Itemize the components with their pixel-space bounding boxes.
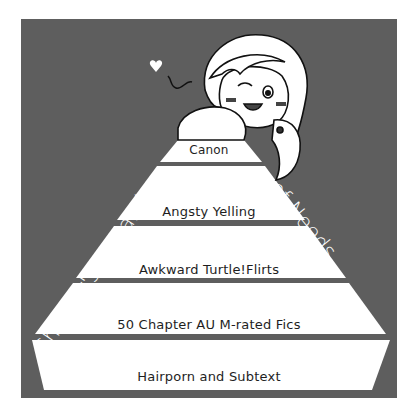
squiggle-line [168,76,192,88]
tier-label-angsty-yelling: Angsty Yelling [0,204,418,219]
heart-icon [150,60,162,72]
tier-label-hairporn: Hairporn and Subtext [0,369,418,384]
tier-label-canon: Canon [0,143,418,157]
tier-label-awkward-flirts: Awkward Turtle!Flirts [0,262,418,277]
